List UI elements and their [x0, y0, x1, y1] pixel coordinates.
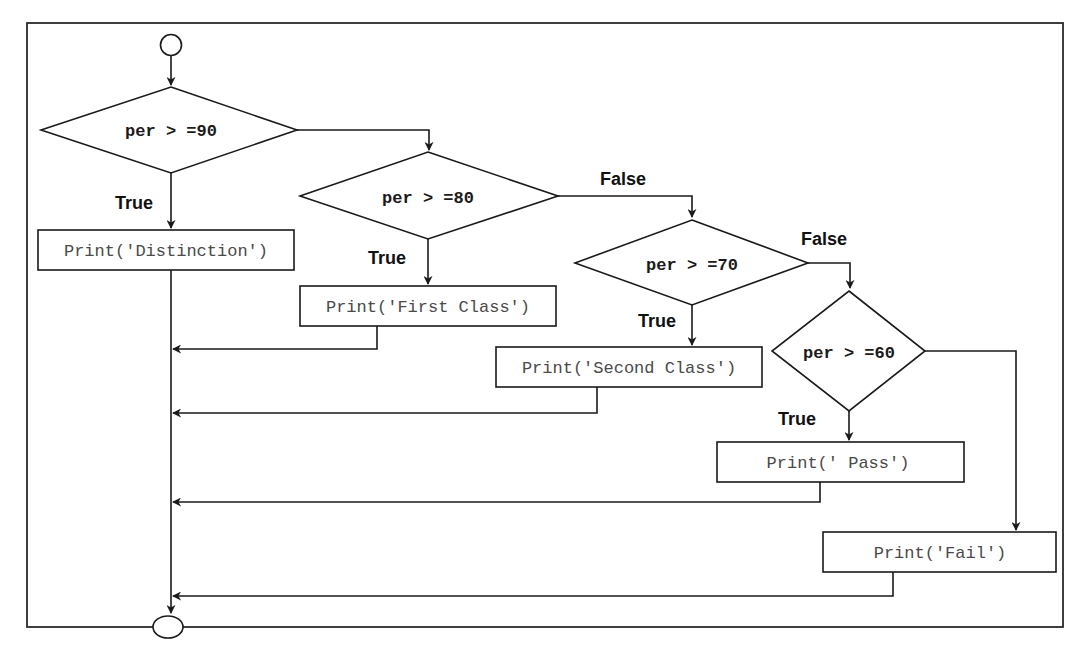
start-terminal [161, 35, 182, 56]
edge-d60-false [925, 351, 1016, 530]
process-first-class: Print('First Class') [300, 286, 556, 326]
edge-label-false: False [801, 229, 847, 249]
process-distinction: Print('Distinction') [38, 230, 294, 270]
process-text: Print(' Pass') [767, 454, 910, 473]
edge-label-true: True [638, 311, 676, 331]
flowchart-canvas: per > =90 True Print('Distinction') per … [0, 0, 1080, 667]
process-pass: Print(' Pass') [717, 442, 964, 482]
edge-label-false: False [600, 169, 646, 189]
decision-per-ge-70: per > =70 [575, 220, 808, 305]
edge-first-class-to-end [173, 326, 377, 349]
process-second-class: Print('Second Class') [496, 347, 762, 387]
decision-text: per > =90 [125, 122, 217, 141]
decision-per-ge-60: per > =60 [772, 291, 925, 411]
edge-label-true: True [368, 248, 406, 268]
process-text: Print('Fail') [874, 544, 1007, 563]
end-terminal [153, 616, 183, 638]
decision-text: per > =60 [803, 344, 895, 363]
edge-fail-to-end [173, 572, 893, 596]
decision-text: per > =70 [646, 256, 738, 275]
edge-d70-false [808, 263, 850, 288]
edge-label-true: True [115, 193, 153, 213]
edge-d90-false [297, 130, 429, 150]
process-fail: Print('Fail') [823, 532, 1056, 572]
decision-per-ge-80: per > =80 [300, 152, 558, 239]
decision-text: per > =80 [382, 189, 474, 208]
edge-second-class-to-end [173, 387, 597, 413]
edge-pass-to-end [173, 482, 820, 502]
process-text: Print('Distinction') [64, 242, 268, 261]
edge-d80-false [558, 196, 692, 217]
decision-per-ge-90: per > =90 [41, 87, 297, 173]
process-text: Print('Second Class') [522, 359, 736, 378]
process-text: Print('First Class') [326, 298, 530, 317]
edge-label-true: True [778, 409, 816, 429]
